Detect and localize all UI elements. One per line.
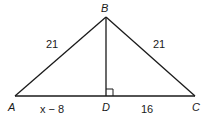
vertex-label-a: A xyxy=(7,101,15,113)
length-label-dc: 16 xyxy=(141,103,153,115)
length-label-ad: x − 8 xyxy=(40,103,64,115)
right-angle-marker xyxy=(106,89,113,96)
segment-bc xyxy=(106,17,195,96)
length-label-bc: 21 xyxy=(153,38,165,50)
triangle-diagram: B A D C 21 21 x − 8 16 xyxy=(0,0,205,120)
segment-ab xyxy=(15,17,106,96)
length-label-ab: 21 xyxy=(46,38,58,50)
vertex-label-c: C xyxy=(192,101,200,113)
vertex-label-d: D xyxy=(102,101,110,113)
vertex-label-b: B xyxy=(101,2,108,14)
